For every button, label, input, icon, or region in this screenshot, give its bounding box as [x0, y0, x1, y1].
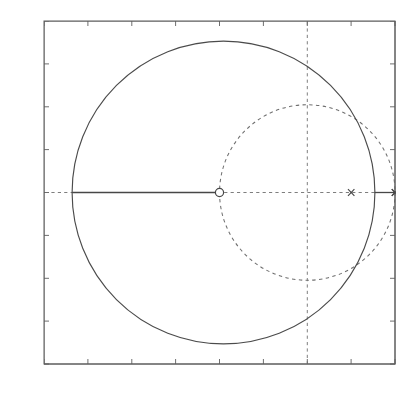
root-locus-figure: Root Locus — [0, 0, 411, 400]
zero-marker — [215, 188, 223, 196]
frame-mask — [0, 0, 411, 400]
plot-canvas: Root Locus — [0, 0, 411, 400]
